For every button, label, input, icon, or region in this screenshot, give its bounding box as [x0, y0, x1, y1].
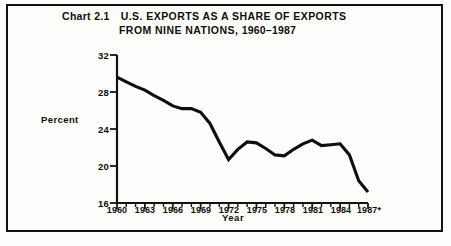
- axis-lines: [117, 55, 368, 203]
- data-series-line: [117, 77, 368, 192]
- source-note: [10, 237, 440, 246]
- plot-area: Percent Year 16 20 24 28 32 1960 1963 19…: [0, 0, 437, 228]
- chart-canvas: [0, 0, 451, 246]
- chart-page: Chart 2.1 U.S. EXPORTS AS A SHARE OF EXP…: [0, 0, 451, 246]
